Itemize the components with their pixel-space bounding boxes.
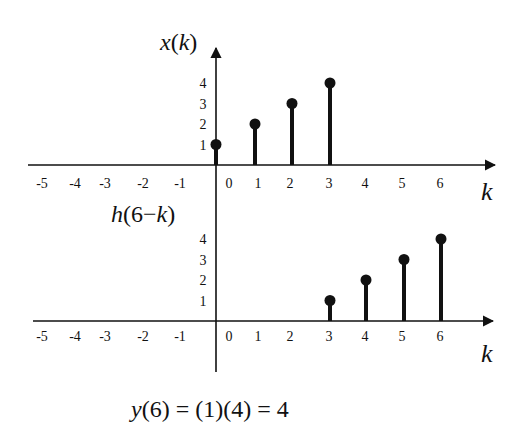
stem-marker [399, 254, 410, 265]
x-tick-label: -2 [137, 176, 149, 191]
x-tick-label: 4 [362, 176, 369, 191]
x-tick-label: 1 [255, 329, 262, 344]
x-tick-label: -2 [137, 329, 149, 344]
stem [436, 234, 447, 322]
y-tick-label: 1 [200, 138, 207, 153]
stem-marker [325, 295, 336, 306]
x-tick-label: 6 [437, 329, 444, 344]
stem-marker [250, 119, 261, 130]
bottom-x-axis-label: k [481, 339, 493, 368]
x-tick-label: 2 [287, 329, 294, 344]
y-tick-label: 3 [200, 253, 207, 268]
x-tick-label: -4 [69, 176, 81, 191]
bottom-stems [325, 234, 447, 322]
x-tick-label: 0 [226, 329, 233, 344]
bottom-x-tick-labels: -5-4-3-2-10123456 [36, 329, 443, 344]
x-tick-label: 2 [287, 176, 294, 191]
x-tick-label: -4 [69, 329, 81, 344]
stem-marker [325, 78, 336, 89]
y-tick-label: 2 [200, 273, 207, 288]
x-tick-label: -3 [99, 176, 111, 191]
bottom-plot-title: h(6−k) [111, 201, 175, 227]
stem [399, 254, 410, 321]
top-x-tick-labels: -5-4-3-2-10123456 [36, 176, 443, 191]
x-tick-label: 3 [326, 176, 333, 191]
x-tick-label: 6 [437, 176, 444, 191]
top-y-tick-labels: 1234 [200, 76, 207, 153]
top-plot: x(k) 1234 -5-4-3-2-10123456 k [28, 29, 495, 206]
result-equation: y(6) = (1)(4) = 4 [129, 396, 289, 422]
convolution-figure: x(k) 1234 -5-4-3-2-10123456 k h(6−k) 123… [0, 0, 521, 445]
y-tick-label: 4 [200, 232, 207, 247]
stem-marker [436, 234, 447, 245]
bottom-y-tick-labels: 1234 [200, 232, 207, 309]
x-tick-label: -1 [174, 329, 186, 344]
x-tick-label: 4 [362, 329, 369, 344]
x-tick-label: -5 [36, 329, 48, 344]
top-stems [211, 78, 336, 166]
y-tick-label: 1 [200, 294, 207, 309]
stem [250, 119, 261, 166]
bottom-plot: h(6−k) 1234 -5-4-3-2-10123456 k [33, 201, 493, 368]
y-tick-label: 3 [200, 97, 207, 112]
x-tick-label: -1 [174, 176, 186, 191]
x-tick-label: -3 [99, 329, 111, 344]
stem-marker [287, 98, 298, 109]
x-tick-label: 0 [226, 176, 233, 191]
top-x-axis-label: k [481, 177, 493, 206]
y-tick-label: 2 [200, 117, 207, 132]
stem [287, 98, 298, 165]
stem [325, 78, 336, 166]
stem-marker [211, 139, 222, 150]
stem [325, 295, 336, 321]
x-tick-label: 5 [399, 329, 406, 344]
stem [211, 139, 222, 165]
y-tick-label: 4 [200, 76, 207, 91]
stem [361, 275, 372, 322]
x-tick-label: 3 [326, 329, 333, 344]
x-tick-label: -5 [36, 176, 48, 191]
top-plot-title: x(k) [159, 29, 197, 55]
x-tick-label: 1 [255, 176, 262, 191]
x-tick-label: 5 [399, 176, 406, 191]
stem-marker [361, 275, 372, 286]
